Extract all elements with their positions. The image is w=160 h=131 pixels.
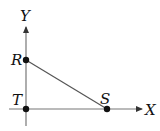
point-t-label: T [12,91,23,109]
point-t [23,106,29,112]
y-axis-label: Y [20,7,32,25]
coordinate-diagram: Y X R T S [0,0,160,131]
segment-rs [26,60,107,109]
point-s-label: S [100,90,110,108]
point-r-label: R [10,51,22,69]
x-axis-label: X [144,101,157,119]
point-r [23,57,29,63]
